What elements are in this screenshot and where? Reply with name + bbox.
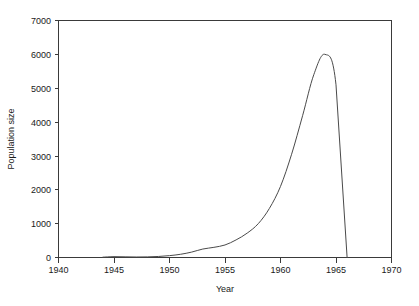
x-tick-label-1965: 1965 [326,265,346,275]
x-tick-label-1955: 1955 [215,265,235,275]
y-tick-label-7000: 7000 [31,16,51,26]
x-tick-label-1960: 1960 [270,265,290,275]
x-tick-label-1945: 1945 [104,265,124,275]
y-tick-label-3000: 3000 [31,152,51,162]
y-tick-label-2000: 2000 [31,185,51,195]
x-tick-label-1950: 1950 [159,265,179,275]
x-tick-label-1970: 1970 [381,265,401,275]
y-tick-label-6000: 6000 [31,50,51,60]
y-tick-label-0: 0 [46,253,51,263]
y-tick-label-1000: 1000 [31,219,51,229]
x-tick-label-1940: 1940 [48,265,68,275]
population-chart-figure: 0 1000 2000 3000 4000 5000 6000 7000 194… [0,0,419,306]
y-tick-label-4000: 4000 [31,118,51,128]
y-axis-title: Population size [6,108,16,169]
x-axis-title: Year [216,284,234,294]
chart-background [0,0,419,306]
y-tick-label-5000: 5000 [31,84,51,94]
chart-canvas: 0 1000 2000 3000 4000 5000 6000 7000 194… [0,0,419,306]
